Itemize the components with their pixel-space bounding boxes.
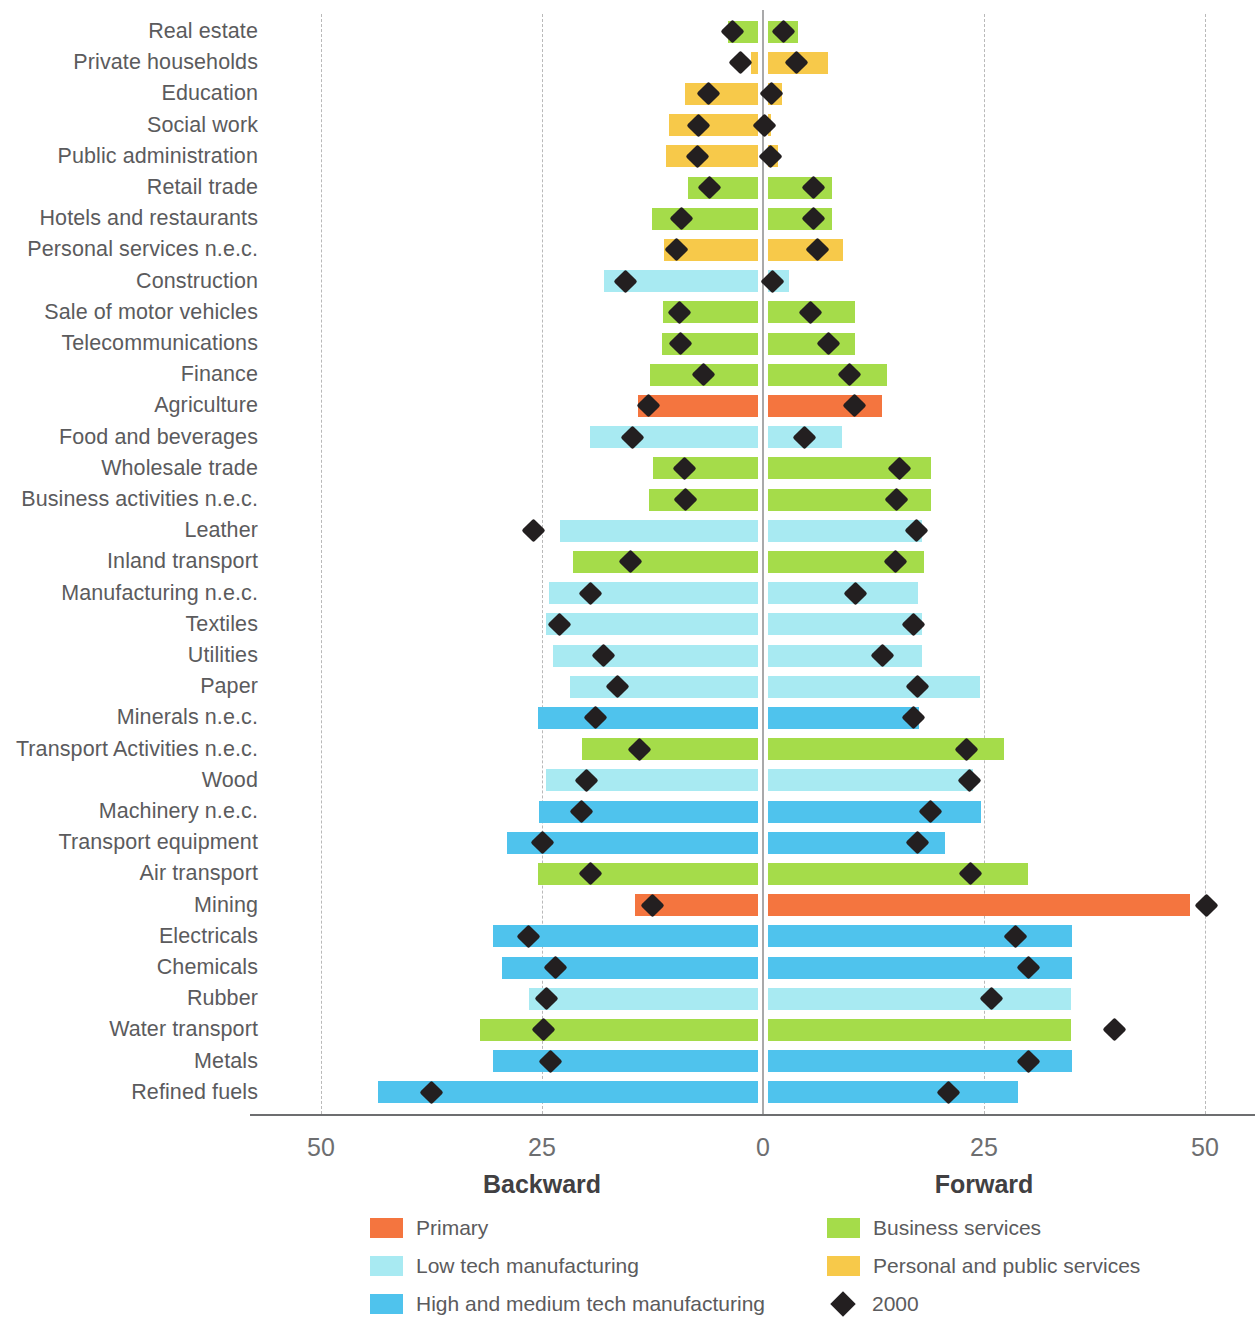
chart-row: Telecommunications	[0, 328, 1255, 359]
legend-label: High and medium tech manufacturing	[416, 1292, 765, 1316]
linkage-chart: Real estatePrivate householdsEducationSo…	[0, 0, 1255, 1319]
forward-bar	[768, 894, 1190, 916]
row-label: Water transport	[0, 1014, 258, 1045]
forward-bar	[768, 645, 922, 667]
legend-item[interactable]: High and medium tech manufacturing	[370, 1292, 765, 1316]
row-label: Chemicals	[0, 952, 258, 983]
forward-bar	[768, 1081, 1018, 1103]
row-label: Retail trade	[0, 172, 258, 203]
marker-2000-forward	[1195, 893, 1219, 917]
forward-bar	[768, 988, 1071, 1010]
row-label: Rubber	[0, 983, 258, 1014]
marker-2000-backward	[521, 519, 545, 543]
chart-row: Real estate	[0, 16, 1255, 47]
backward-bar	[480, 1019, 758, 1041]
row-label: Metals	[0, 1046, 258, 1077]
chart-row: Private households	[0, 47, 1255, 78]
legend-label: Personal and public services	[873, 1254, 1140, 1278]
chart-row: Transport Activities n.e.c.	[0, 734, 1255, 765]
backward-bar	[553, 645, 758, 667]
forward-bar	[768, 769, 973, 791]
chart-row: Public administration	[0, 141, 1255, 172]
chart-row: Water transport	[0, 1014, 1255, 1045]
x-tick-label: 0	[756, 1133, 770, 1162]
backward-bar	[493, 1050, 758, 1072]
chart-row: Electricals	[0, 921, 1255, 952]
chart-row: Transport equipment	[0, 827, 1255, 858]
backward-bar	[529, 988, 758, 1010]
legend-swatch-icon	[827, 1218, 860, 1238]
row-label: Business activities n.e.c.	[0, 484, 258, 515]
chart-row: Sale of motor vehicles	[0, 297, 1255, 328]
row-label: Food and beverages	[0, 422, 258, 453]
backward-bar	[502, 957, 758, 979]
row-label: Education	[0, 78, 258, 109]
row-label: Utilities	[0, 640, 258, 671]
row-label: Transport Activities n.e.c.	[0, 734, 258, 765]
row-label: Manufacturing n.e.c.	[0, 578, 258, 609]
backward-bar	[653, 457, 759, 479]
row-label: Public administration	[0, 141, 258, 172]
backward-bar	[590, 426, 758, 448]
legend-item[interactable]: Primary	[370, 1216, 488, 1240]
chart-row: Rubber	[0, 983, 1255, 1014]
row-label: Agriculture	[0, 390, 258, 421]
row-label: Textiles	[0, 609, 258, 640]
chart-legend: PrimaryLow tech manufacturingHigh and me…	[370, 1216, 1190, 1316]
plot-area: Real estatePrivate householdsEducationSo…	[0, 0, 1255, 1122]
chart-row: Education	[0, 78, 1255, 109]
chart-row: Agriculture	[0, 390, 1255, 421]
marker-2000-forward	[759, 144, 783, 168]
backward-bar	[570, 676, 758, 698]
backward-bar	[573, 551, 758, 573]
legend-item[interactable]: 2000	[827, 1292, 919, 1316]
backward-bar	[546, 613, 758, 635]
forward-bar	[768, 863, 1028, 885]
row-label: Air transport	[0, 858, 258, 889]
row-label: Real estate	[0, 16, 258, 47]
row-label: Finance	[0, 359, 258, 390]
backward-bar	[649, 489, 758, 511]
chart-row: Construction	[0, 266, 1255, 297]
marker-2000-backward	[728, 51, 752, 75]
row-label: Mining	[0, 890, 258, 921]
row-label: Minerals n.e.c.	[0, 702, 258, 733]
chart-row: Leather	[0, 515, 1255, 546]
row-label: Telecommunications	[0, 328, 258, 359]
forward-bar	[768, 333, 855, 355]
chart-row: Manufacturing n.e.c.	[0, 578, 1255, 609]
x-tick-label: 25	[970, 1133, 998, 1162]
legend-item[interactable]: Low tech manufacturing	[370, 1254, 639, 1278]
row-label: Private households	[0, 47, 258, 78]
forward-bar	[768, 707, 919, 729]
row-label: Hotels and restaurants	[0, 203, 258, 234]
x-tick-label: 25	[528, 1133, 556, 1162]
chart-row: Wood	[0, 765, 1255, 796]
chart-row: Machinery n.e.c.	[0, 796, 1255, 827]
row-label: Wood	[0, 765, 258, 796]
forward-bar	[768, 364, 887, 386]
row-label: Machinery n.e.c.	[0, 796, 258, 827]
backward-bar	[560, 520, 758, 542]
legend-label: 2000	[872, 1292, 919, 1316]
chart-row: Air transport	[0, 858, 1255, 889]
chart-row: Utilities	[0, 640, 1255, 671]
row-label: Leather	[0, 515, 258, 546]
legend-label: Primary	[416, 1216, 488, 1240]
legend-swatch-icon	[370, 1218, 403, 1238]
row-label: Sale of motor vehicles	[0, 297, 258, 328]
chart-row: Chemicals	[0, 952, 1255, 983]
forward-bar	[768, 1019, 1071, 1041]
chart-row: Metals	[0, 1046, 1255, 1077]
legend-swatch-icon	[370, 1294, 403, 1314]
chart-row: Hotels and restaurants	[0, 203, 1255, 234]
chart-row: Mining	[0, 890, 1255, 921]
backward-bar	[582, 738, 758, 760]
row-label: Paper	[0, 671, 258, 702]
legend-item[interactable]: Personal and public services	[827, 1254, 1140, 1278]
chart-row: Inland transport	[0, 546, 1255, 577]
legend-label: Business services	[873, 1216, 1041, 1240]
legend-item[interactable]: Business services	[827, 1216, 1041, 1240]
row-label: Electricals	[0, 921, 258, 952]
row-label: Wholesale trade	[0, 453, 258, 484]
